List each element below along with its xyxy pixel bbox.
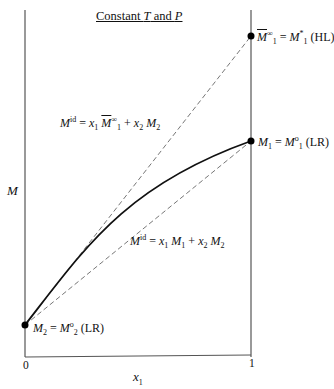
ideal-lewis-randall-dashed-line [25, 141, 251, 325]
lr1-tag: (LR) [303, 135, 329, 149]
lr1-eq: = [272, 135, 285, 149]
x-axis-label: x1 [133, 370, 143, 383]
x-label-sub: 1 [139, 378, 143, 387]
eq-l-M: M [130, 234, 140, 248]
title-and: and [151, 9, 175, 23]
label-lr2: M2 = Mo2 (LR) [33, 322, 104, 334]
label-lr1: M1 = Mo1 (LR) [258, 136, 329, 148]
lr1-rhs: M [285, 135, 295, 149]
lr2-lhs: M [33, 321, 43, 335]
lr1-lhs: M [258, 135, 268, 149]
hl-rhs: M [289, 30, 299, 44]
lr2-tag: (LR) [78, 321, 104, 335]
eq-l-plus: + [185, 234, 198, 248]
eq-l-M1: M [171, 234, 181, 248]
title-T: T [144, 9, 151, 23]
hl-eq: = [277, 30, 290, 44]
title-text: Constant [96, 9, 144, 23]
eq-u-M2s: 2 [156, 123, 160, 132]
eq-l-x2s: 2 [203, 241, 207, 250]
eq-u-M: M [60, 116, 70, 130]
label-hl: M∞1 = M*1 (HL) [257, 31, 334, 43]
eq-u-x2s: 2 [139, 123, 143, 132]
x-tick-0: 0 [23, 360, 29, 372]
eq-l-M2: M [210, 234, 220, 248]
eq-u-x1s: 1 [94, 123, 98, 132]
eq-u-eq: = [76, 116, 89, 130]
title-P: P [175, 9, 183, 23]
point-lr1 [248, 138, 255, 145]
eq-u-plus: + [121, 116, 134, 130]
eq-l-M2s: 2 [220, 241, 224, 250]
x-tick-1: 1 [249, 358, 255, 370]
diagram-title: Constant T and P [96, 10, 182, 23]
hl-lhs: M [257, 30, 267, 44]
hl-tag: (HL) [307, 30, 334, 44]
equation-henry-ideal: Mid = x1 M∞1 + x2 M2 [60, 117, 160, 129]
lr2-rhs: M [60, 321, 70, 335]
y-axis-label: M [7, 184, 18, 197]
point-lr2 [22, 322, 29, 329]
eq-u-M2: M [146, 116, 156, 130]
lr2-eq: = [47, 321, 60, 335]
point-hl [248, 33, 255, 40]
eq-u-Mbar: M [101, 116, 111, 130]
eq-l-eq: = [146, 234, 159, 248]
equation-lewis-randall-ideal: Mid = x1 M1 + x2 M2 [130, 235, 224, 247]
eq-l-x1s: 1 [164, 241, 168, 250]
x-axis-line [25, 355, 251, 357]
